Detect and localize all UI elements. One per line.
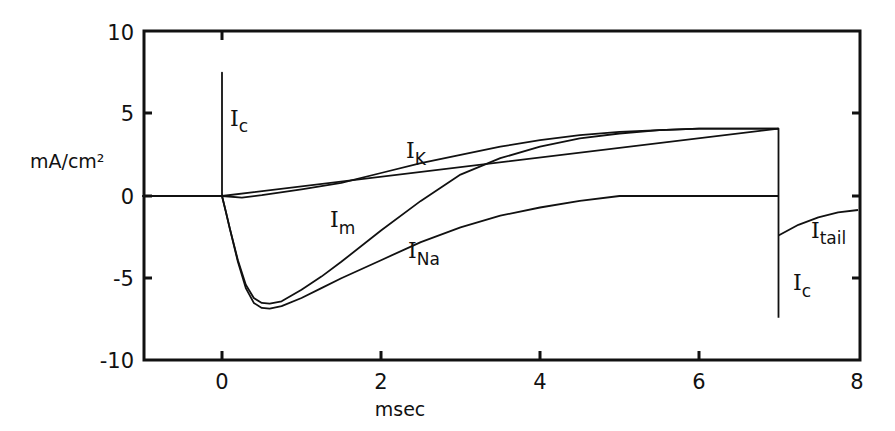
x-tick-label: 4 xyxy=(533,370,546,394)
x-axis-title: msec xyxy=(375,398,426,420)
y-tick-label: 0 xyxy=(121,185,134,209)
x-tick-label: 8 xyxy=(850,370,863,394)
label-im: Im xyxy=(330,207,355,238)
curve-i-k xyxy=(143,129,779,198)
y-tick-label: -10 xyxy=(100,349,134,373)
label-ic-bottom: Ic xyxy=(793,270,811,301)
y-tick-label: -5 xyxy=(113,267,134,291)
y-axis-tick-labels: 10 5 0 -5 -10 xyxy=(100,21,134,373)
chart-canvas: 10 5 0 -5 -10 0 2 4 6 8 msec mA/cm² Ic I… xyxy=(0,0,895,431)
label-ina: INa xyxy=(408,238,440,269)
x-tick-label: 6 xyxy=(692,370,705,394)
label-ic-top: Ic xyxy=(230,106,248,136)
label-itail: Itail xyxy=(811,218,846,248)
y-tick-label: 10 xyxy=(107,21,134,45)
curve-i-na xyxy=(143,196,779,309)
curves-group xyxy=(143,73,859,318)
y-tick-label: 5 xyxy=(121,102,134,126)
x-axis-tick-labels: 0 2 4 6 8 xyxy=(215,370,863,394)
x-tick-label: 2 xyxy=(374,370,387,394)
y-axis-title: mA/cm² xyxy=(30,150,104,172)
curve-labels: Ic IK Im INa Itail Ic xyxy=(230,106,846,301)
label-ik: IK xyxy=(406,138,427,169)
x-tick-label: 0 xyxy=(215,370,228,394)
